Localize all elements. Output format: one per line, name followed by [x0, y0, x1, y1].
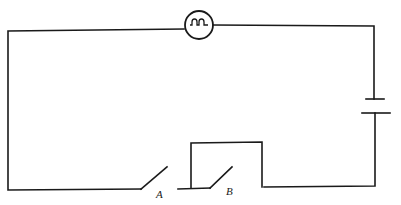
switch-a: A	[141, 167, 167, 200]
circuit-diagram: A B	[0, 0, 401, 205]
wire-top-right	[213, 25, 374, 99]
wire-middle	[178, 188, 210, 189]
switch-b: B	[210, 167, 233, 197]
lamp-icon	[185, 11, 213, 39]
wire-bypass-loop	[191, 142, 262, 188]
switch-a-label: A	[155, 188, 163, 200]
battery-icon	[362, 99, 390, 113]
wire-left	[8, 29, 184, 190]
wire-right	[264, 113, 375, 187]
switch-b-label: B	[226, 185, 233, 197]
